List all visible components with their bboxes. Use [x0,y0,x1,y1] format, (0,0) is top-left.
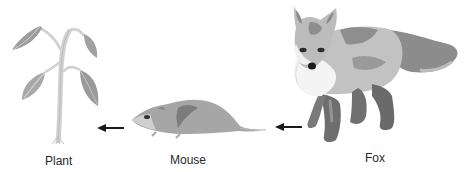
mouse-label: Mouse [170,153,206,167]
arrow-left-icon [275,123,302,131]
fox-icon [294,6,458,142]
food-chain-diagram: Plant Mouse Fox [0,0,466,172]
plant-label: Plant [45,154,72,168]
arrow-left-icon [97,124,124,132]
diagram-canvas [0,0,466,172]
mouse-icon [132,100,266,138]
plant-icon [12,26,98,144]
fox-label: Fox [365,151,385,165]
